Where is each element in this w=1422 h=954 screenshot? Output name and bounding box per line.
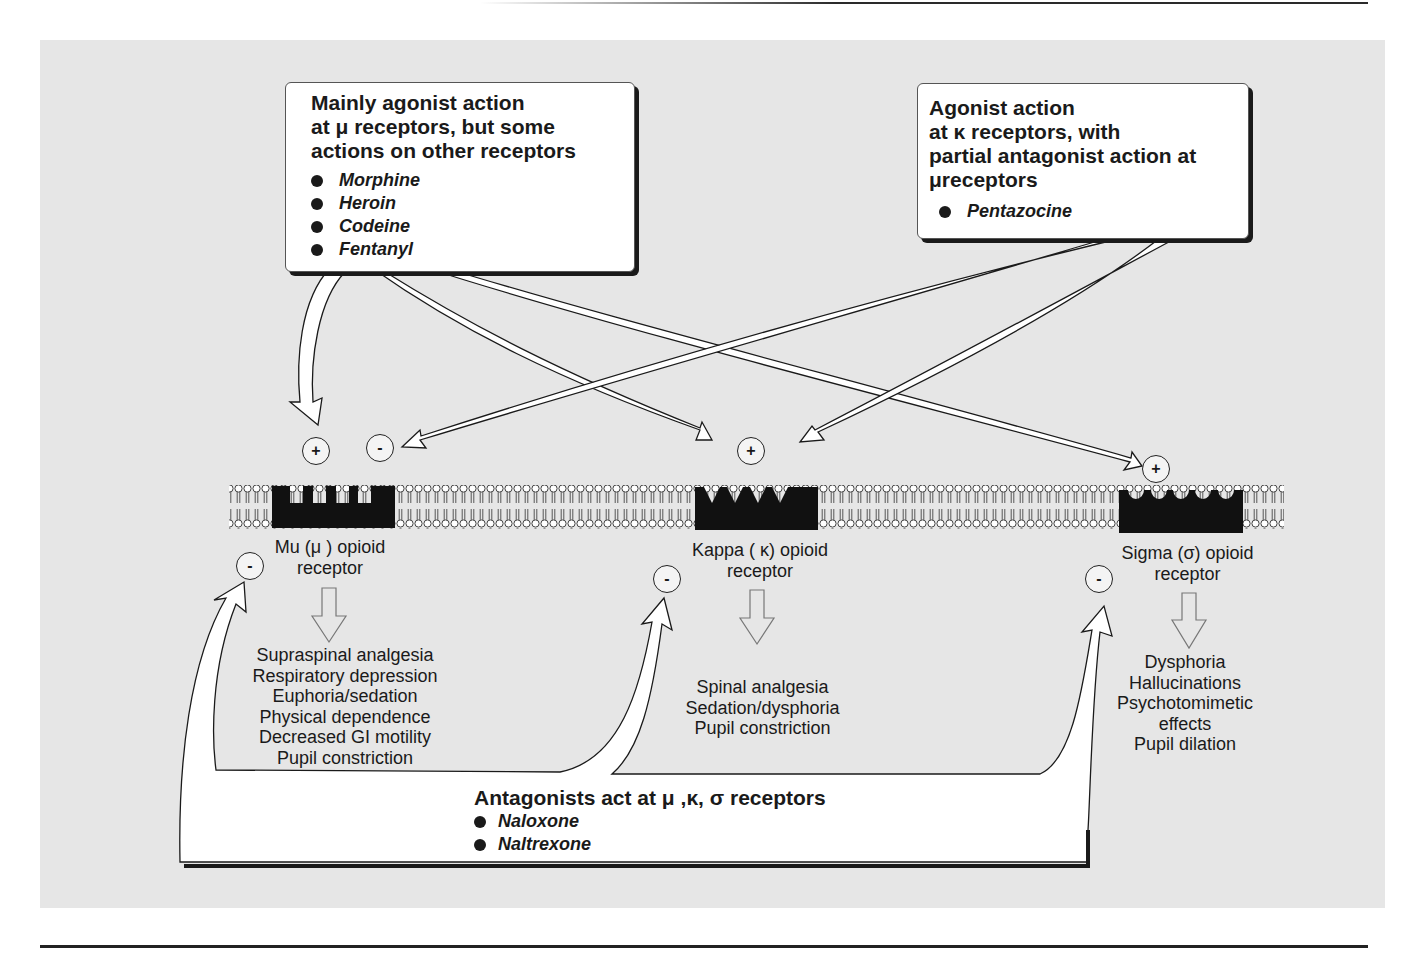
kappa-receptor-name: Kappa ( κ) opioid: [665, 540, 855, 561]
mu-agonist-title-line-1: Mainly agonist action: [311, 91, 576, 115]
arrow-pentazocine-to-kappa: [800, 236, 1180, 442]
arrow-morphine-to-mu: [290, 268, 345, 425]
sigma-effects-list: Dysphoria Hallucinations Psychotomimetic…: [1095, 652, 1275, 755]
sigma-effect-arrow: [1172, 593, 1206, 648]
mu-receptor-word: receptor: [250, 558, 410, 579]
effect-item: Sedation/dysphoria: [660, 698, 865, 719]
drug-item: Fentanyl: [311, 238, 576, 261]
effect-item: Pupil constriction: [225, 748, 465, 769]
effect-item: Dysphoria: [1095, 652, 1275, 673]
kappa-agonist-plus-icon: +: [737, 437, 765, 465]
mu-receptor-name: Mu (μ ) opioid: [250, 537, 410, 558]
mu-agonist-title-line-2: at μ receptors, but some: [311, 115, 576, 139]
kappa-agonist-title-line-3: partial antagonist action at: [929, 144, 1196, 168]
drug-item: Heroin: [311, 192, 576, 215]
kappa-agonist-title-line-4: μreceptors: [929, 168, 1196, 192]
antagonist-section: Antagonists act at μ ,κ, σ receptors Nal…: [474, 786, 826, 856]
effect-item: Spinal analgesia: [660, 677, 865, 698]
effect-item: Hallucinations: [1095, 673, 1275, 694]
bottom-rule: [40, 945, 1368, 948]
mu-agonist-title-line-3: actions on other receptors: [311, 139, 576, 163]
effect-item: Respiratory depression: [225, 666, 465, 687]
effect-item: effects: [1095, 714, 1275, 735]
bullet-icon: [311, 221, 323, 233]
drug-heroin: Heroin: [339, 192, 396, 215]
mu-effect-arrow: [312, 588, 346, 642]
drug-item: Morphine: [311, 169, 576, 192]
drug-pentazocine: Pentazocine: [967, 200, 1072, 223]
drug-item: Pentazocine: [929, 200, 1196, 223]
mu-agonist-plus-icon: +: [302, 437, 330, 465]
bullet-icon: [311, 244, 323, 256]
drug-item: Naloxone: [474, 810, 826, 833]
sigma-receptor-name: Sigma (σ) opioid: [1100, 543, 1275, 564]
drug-item: Naltrexone: [474, 833, 826, 856]
sigma-receptor-label: Sigma (σ) opioid receptor: [1100, 543, 1275, 585]
drug-naltrexone: Naltrexone: [498, 833, 591, 856]
sigma-agonist-plus-icon: +: [1142, 455, 1170, 483]
kappa-effect-arrow: [740, 590, 774, 644]
effect-item: Pupil constriction: [660, 718, 865, 739]
effect-arrows: [312, 588, 1206, 648]
effect-item: Euphoria/sedation: [225, 686, 465, 707]
drug-codeine: Codeine: [339, 215, 410, 238]
bullet-icon: [311, 198, 323, 210]
mu-agonist-callout: Mainly agonist action at μ receptors, bu…: [285, 82, 635, 272]
bullet-icon: [474, 839, 486, 851]
bullet-icon: [474, 816, 486, 828]
mu-effects-list: Supraspinal analgesia Respiratory depres…: [225, 645, 465, 768]
kappa-agonist-callout: Agonist action at κ receptors, with part…: [917, 83, 1249, 239]
bullet-icon: [311, 175, 323, 187]
effect-item: Pupil dilation: [1095, 734, 1275, 755]
antagonist-title: Antagonists act at μ ,κ, σ receptors: [474, 786, 826, 810]
effect-item: Supraspinal analgesia: [225, 645, 465, 666]
drug-morphine: Morphine: [339, 169, 420, 192]
effect-item: Psychotomimetic: [1095, 693, 1275, 714]
effect-item: Physical dependence: [225, 707, 465, 728]
drug-item: Codeine: [311, 215, 576, 238]
kappa-receptor-word: receptor: [665, 561, 855, 582]
effect-item: Decreased GI motility: [225, 727, 465, 748]
mu-partial-antagonist-minus-icon: -: [366, 434, 394, 462]
kappa-agonist-title-line-2: at κ receptors, with: [929, 120, 1196, 144]
kappa-receptor-label: Kappa ( κ) opioid receptor: [665, 540, 855, 582]
bullet-icon: [939, 206, 951, 218]
kappa-effects-list: Spinal analgesia Sedation/dysphoria Pupi…: [660, 677, 865, 739]
kappa-agonist-title-line-1: Agonist action: [929, 96, 1196, 120]
sigma-receptor-word: receptor: [1100, 564, 1275, 585]
drug-fentanyl: Fentanyl: [339, 238, 413, 261]
arrow-morphine-to-kappa: [372, 268, 712, 440]
arrow-morphine-to-sigma: [420, 264, 1142, 470]
mu-receptor-label: Mu (μ ) opioid receptor: [250, 537, 410, 579]
drug-naloxone: Naloxone: [498, 810, 579, 833]
